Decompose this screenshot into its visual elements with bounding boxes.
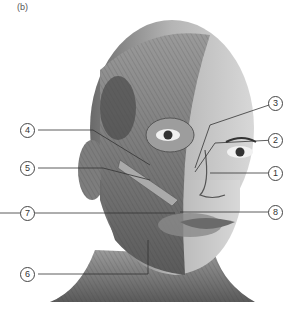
callout-3: 3 — [268, 96, 283, 111]
callout-1: 1 — [268, 166, 283, 181]
callout-6: 6 — [20, 267, 35, 282]
callout-8: 8 — [268, 205, 283, 220]
callout-7: 7 — [20, 206, 35, 221]
callout-2: 2 — [268, 133, 283, 148]
callout-5: 5 — [20, 161, 35, 176]
facial-muscle-anatomy-figure — [0, 0, 304, 320]
callout-4: 4 — [20, 123, 35, 138]
